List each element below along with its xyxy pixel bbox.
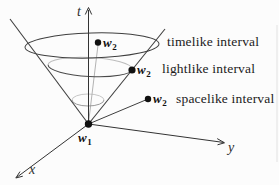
point-dot-lightlike (128, 66, 135, 73)
point-label-spacelike: w2 (153, 91, 167, 110)
point-label-origin: w1 (78, 130, 92, 149)
timelike-interval-label: timelike interval (167, 35, 259, 49)
point-label-lightlike-sub: 2 (146, 69, 151, 79)
point-dot-spacelike (145, 96, 151, 102)
point-label-origin-sub: 1 (87, 137, 92, 147)
point-label-timelike: w2 (103, 35, 117, 54)
point-label-timelike-sub: 2 (112, 42, 117, 52)
t-axis-label: t (77, 5, 81, 19)
lightlike-interval-label: lightlike interval (162, 62, 255, 76)
point-label-spacelike-sub: 2 (162, 98, 167, 108)
cone-top-ellipse (25, 31, 160, 59)
middle-ellipse-front-arc (48, 65, 132, 79)
cone-left-edge (10, 19, 89, 124)
point-label-lightlike: w2 (137, 62, 151, 81)
spacelike-connector-line (89, 99, 149, 124)
point-label-origin-base: w (78, 130, 87, 145)
point-label-spacelike-base: w (153, 91, 162, 106)
spacelike-interval-label: spacelike interval (176, 92, 274, 106)
point-dot-timelike (95, 39, 101, 45)
y-axis-line (89, 124, 225, 143)
y-axis-label: y (228, 141, 234, 155)
lightcone-diagram: t x y w2 w2 w2 w1 timelike interval ligh… (0, 0, 279, 185)
point-dot-origin (85, 120, 92, 127)
point-label-timelike-base: w (103, 35, 112, 50)
point-label-lightlike-base: w (137, 62, 146, 77)
timelike-connector-line (89, 45, 99, 123)
x-axis-label: x (29, 163, 35, 177)
